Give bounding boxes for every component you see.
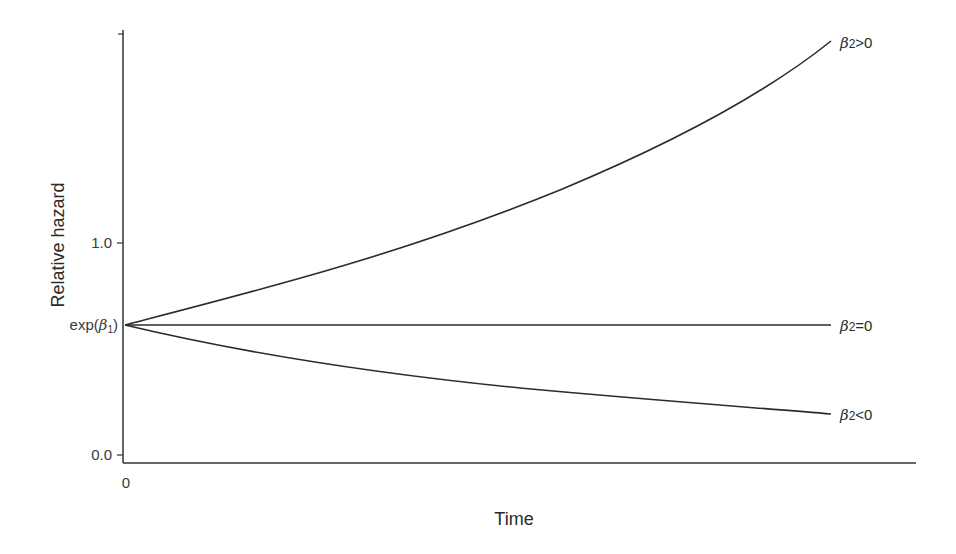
series-label-beta2-negative: β2<0	[839, 406, 872, 424]
series-label-beta2-positive: β2>0	[839, 34, 872, 52]
x-axis-title: Time	[494, 509, 533, 529]
y-tick-label-0: 0.0	[91, 446, 112, 463]
relative-hazard-chart: 1.0 0.0 exp(β1) 0 Time Relative hazard β…	[0, 0, 956, 554]
y-tick-label-1: 1.0	[91, 234, 112, 251]
series-line-beta2-negative	[125, 325, 831, 414]
y-tick-label-exp-beta1: exp(β1)	[70, 316, 118, 335]
y-axis-title: Relative hazard	[48, 182, 68, 307]
series-line-beta2-positive	[125, 41, 831, 325]
x-tick-label-0: 0	[122, 474, 130, 491]
series-label-beta2-zero: β2=0	[839, 317, 872, 335]
